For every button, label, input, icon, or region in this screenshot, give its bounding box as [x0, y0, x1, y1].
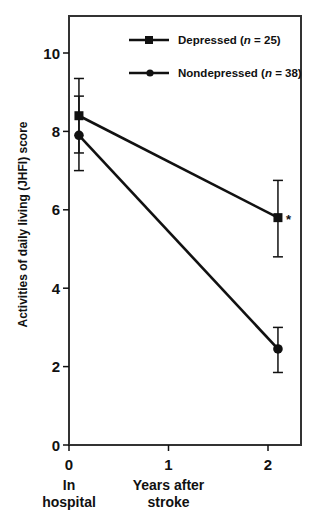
x-caption-line: hospital — [42, 494, 96, 510]
y-axis-label: Activities of daily living (JHFI) score — [16, 121, 30, 327]
x-caption-line: In — [63, 477, 75, 493]
legend-item-nondepressed: Nondepressed (n = 38) — [129, 67, 302, 79]
series-nondepressed — [74, 96, 283, 372]
plot-border — [69, 16, 301, 445]
y-axis: 0246810 — [43, 45, 69, 454]
y-tick-label: 2 — [52, 358, 60, 375]
x-axis-captions: InhospitalYears afterstroke — [42, 477, 205, 510]
chart: 0246810 012 InhospitalYears afterstroke … — [0, 0, 320, 527]
y-tick-label: 6 — [52, 201, 60, 218]
series-layer — [74, 78, 283, 372]
x-tick-label: 1 — [164, 456, 172, 473]
x-tick-label: 0 — [65, 456, 73, 473]
legend-square-icon — [145, 36, 153, 44]
legend: Depressed (n = 25)Nondepressed (n = 38) — [129, 34, 302, 79]
x-caption-line: Years after — [133, 477, 205, 493]
legend-circle-icon — [146, 69, 153, 76]
series-depressed — [74, 78, 283, 256]
y-tick-label: 8 — [52, 123, 60, 140]
x-tick-label: 2 — [264, 456, 272, 473]
circle-marker — [273, 344, 283, 354]
legend-label: Nondepressed (n = 38) — [178, 67, 302, 79]
y-tick-label: 0 — [52, 437, 60, 454]
significance-asterisk: * — [286, 212, 292, 227]
plot-frame — [69, 16, 301, 445]
square-marker — [273, 213, 282, 222]
x-axis: 012 — [65, 445, 272, 473]
y-tick-label: 4 — [52, 280, 61, 297]
legend-label: Depressed (n = 25) — [178, 34, 281, 46]
annotations: * — [286, 212, 292, 227]
y-tick-label: 10 — [43, 45, 60, 62]
circle-marker — [74, 131, 84, 141]
legend-item-depressed: Depressed (n = 25) — [129, 34, 281, 46]
x-caption-line: stroke — [147, 494, 189, 510]
